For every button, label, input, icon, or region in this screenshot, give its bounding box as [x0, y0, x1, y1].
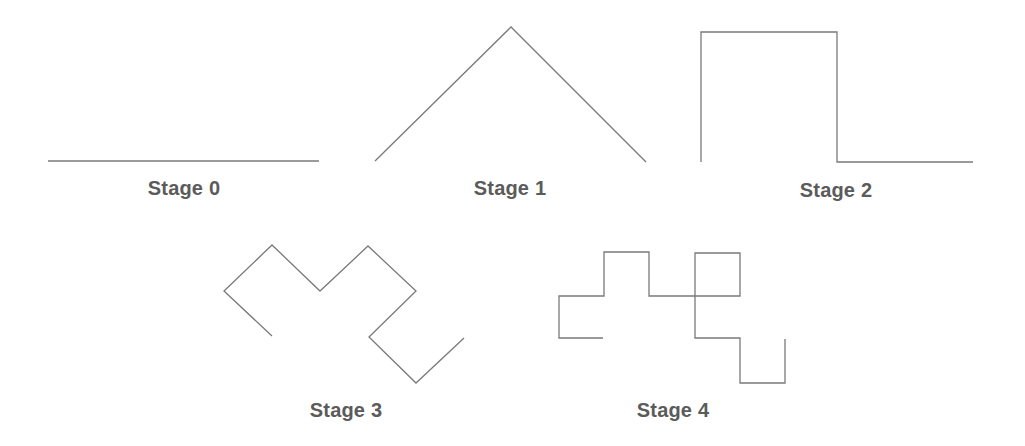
stage-1-label: Stage 1	[474, 177, 547, 200]
stage-1-curve	[375, 27, 646, 162]
stage-2-label: Stage 2	[800, 179, 873, 202]
stage-2-curve	[701, 32, 973, 162]
stage-3-label: Stage 3	[310, 399, 383, 422]
stage-4-label: Stage 4	[637, 399, 710, 422]
stage-3-curve	[224, 245, 464, 383]
stage-4-curve	[559, 252, 785, 383]
stage-0-label: Stage 0	[148, 177, 221, 200]
diagram-canvas	[0, 0, 1025, 446]
